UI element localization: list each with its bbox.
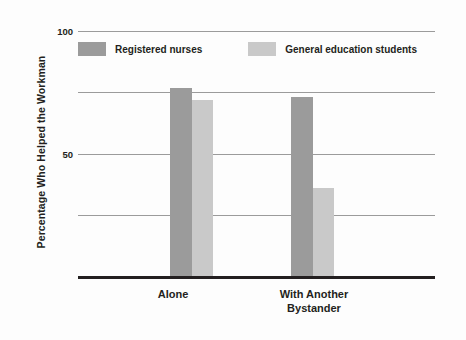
legend-item-registered-nurses: Registered nurses <box>78 42 202 56</box>
y-axis-title: Percentage Who Helped the Workman <box>35 27 47 277</box>
x-axis-category-alone-line1: Alone <box>133 287 213 301</box>
legend-swatch-icon-general-education-students <box>248 42 276 56</box>
bar-registered-nurses-alone <box>170 88 192 277</box>
gridline-100 <box>78 31 435 32</box>
plot-area: 100 50 <box>78 31 435 277</box>
legend-item-general-education-students: General education students <box>248 42 417 56</box>
chart-legend: Registered nurses General education stud… <box>78 42 417 56</box>
gridline-25 <box>78 215 435 216</box>
x-axis-category-with-another-bystander: With Another Bystander <box>252 287 376 315</box>
x-axis-line <box>78 276 435 279</box>
y-axis-tick-50: 50 <box>62 149 73 160</box>
bar-general-education-students-alone <box>192 100 213 277</box>
legend-label-general-education-students: General education students <box>285 44 417 55</box>
x-axis-category-alone: Alone <box>133 287 213 301</box>
bar-general-education-students-with-another-bystander <box>313 188 334 277</box>
bar-chart-figure: Percentage Who Helped the Workman 100 50… <box>0 0 466 340</box>
legend-swatch-icon-registered-nurses <box>78 42 106 56</box>
y-axis-tick-100: 100 <box>57 26 73 37</box>
bar-registered-nurses-with-another-bystander <box>291 97 313 277</box>
gridline-75 <box>78 92 435 93</box>
gridline-50 <box>78 154 435 155</box>
legend-label-registered-nurses: Registered nurses <box>115 44 202 55</box>
x-axis-category-with-another-bystander-line1: With Another <box>252 287 376 301</box>
x-axis-category-with-another-bystander-line2: Bystander <box>252 301 376 315</box>
